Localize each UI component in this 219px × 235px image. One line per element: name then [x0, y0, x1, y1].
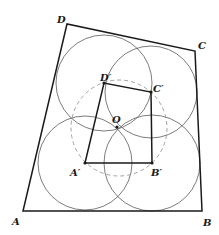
- label-A-prime: A′: [69, 167, 81, 178]
- label-B: B: [202, 217, 211, 228]
- label-A: A: [11, 216, 20, 227]
- label-D-prime: D′: [99, 72, 112, 83]
- label-C: C: [198, 40, 206, 51]
- vertex-dot: [83, 161, 86, 164]
- vertex-dot: [115, 125, 118, 128]
- vertex-dot: [150, 161, 153, 164]
- label-D: D: [56, 14, 66, 25]
- label-O: O: [112, 114, 121, 125]
- label-C-prime: C′: [153, 83, 164, 94]
- geometry-diagram: A B C D A′ B′ C′ D′ O: [0, 0, 219, 235]
- label-B-prime: B′: [150, 167, 162, 178]
